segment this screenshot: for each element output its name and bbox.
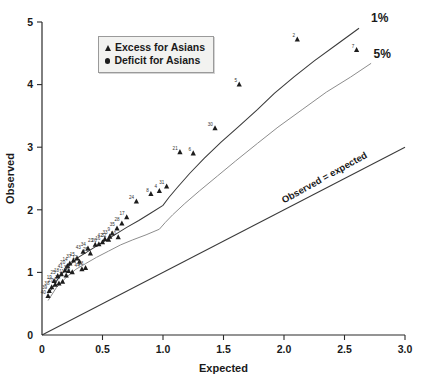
data-point-marker (119, 220, 124, 225)
chart-legend: Excess for Asians Deficit for Asians (98, 36, 214, 73)
data-point-marker (177, 149, 182, 154)
data-point-marker (114, 225, 119, 230)
data-point-marker (124, 214, 129, 219)
data-point-marker (83, 265, 88, 270)
data-point-marker (45, 293, 50, 298)
data-point-label: 12 (72, 255, 78, 260)
data-point-marker (134, 199, 139, 204)
x-axis-tick-label: 0 (39, 343, 45, 355)
data-point-label: 10 (111, 231, 117, 236)
y-axis-tick-label: 5 (27, 16, 33, 28)
y-axis-title: Observed (4, 153, 16, 204)
legend-item-excess: Excess for Asians (105, 41, 205, 54)
data-point-label: 29 (83, 247, 89, 252)
x-axis-tick-label: 2.5 (337, 343, 352, 355)
data-point-label: 1 (54, 277, 57, 282)
legend-label-excess: Excess for Asians (115, 41, 205, 54)
data-point-marker (354, 47, 359, 52)
legend-item-deficit: Deficit for Asians (105, 54, 205, 67)
data-point-label: 2 (293, 33, 296, 38)
legend-label-deficit: Deficit for Asians (114, 54, 200, 67)
circle-marker-icon (105, 58, 110, 63)
data-point-label: 7 (352, 44, 355, 49)
y-axis-tick-label: 1 (27, 266, 33, 278)
data-point-marker (295, 36, 300, 41)
data-point-label: 35 (110, 222, 116, 227)
annotation-lower-band-label: 5% (374, 47, 392, 61)
data-point-label: 30 (208, 122, 214, 127)
x-axis-tick-label: 1.5 (216, 343, 231, 355)
annotation-identity-line-label: Observed = expected (280, 149, 369, 205)
data-point-marker (164, 184, 169, 189)
data-point-marker (237, 82, 242, 87)
data-point-label: 28 (115, 217, 121, 222)
y-axis-tick-label: 3 (27, 141, 33, 153)
y-axis-tick-label: 0 (27, 329, 33, 341)
x-axis-tick-label: 1.0 (156, 343, 171, 355)
data-point-marker (191, 150, 196, 155)
data-point-label: 17 (119, 211, 125, 216)
data-point-marker (116, 234, 121, 239)
x-axis-tick-label: 2.0 (277, 343, 292, 355)
annotation-upper-band-label: 1% (371, 11, 389, 25)
x-axis-tick-label: 3.0 (398, 343, 413, 355)
data-point-label: 32 (101, 233, 107, 238)
data-point-label: 44 (75, 263, 81, 268)
triangle-marker-icon (105, 45, 111, 51)
data-point-marker (212, 125, 217, 130)
y-axis-tick-label: 2 (27, 204, 33, 216)
x-axis-tick-label: 0.5 (95, 343, 110, 355)
data-point-label: 31 (159, 180, 165, 185)
data-point-label: 43 (76, 245, 82, 250)
data-point-label: 8 (146, 188, 149, 193)
data-point-marker (148, 191, 153, 196)
data-point-label: 6 (188, 147, 191, 152)
qq-plot-figure: 2753021631482417283591033423216232634432… (0, 0, 428, 374)
data-point-marker (64, 272, 69, 277)
data-point-label: 36 (65, 266, 71, 271)
y-axis-tick-label: 4 (27, 78, 33, 90)
data-point-marker (157, 188, 162, 193)
data-point-label: 21 (173, 146, 179, 151)
data-point-label: 5 (234, 78, 237, 83)
data-point-label: 4 (155, 184, 158, 189)
reference-lines-group (42, 28, 405, 335)
data-point-label: 26 (92, 238, 98, 243)
x-axis-title: Expected (199, 362, 248, 374)
data-point-label: 24 (129, 195, 135, 200)
